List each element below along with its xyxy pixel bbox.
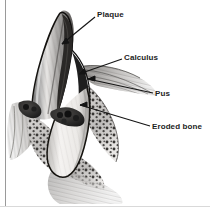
illustration-figure: Plaque Calculus Pus Eroded bone	[0, 0, 210, 207]
label-plaque: Plaque	[97, 10, 124, 19]
label-pus: Pus	[155, 89, 170, 98]
label-calculus: Calculus	[124, 53, 158, 62]
label-eroded-bone: Eroded bone	[152, 122, 202, 131]
periodontal-illustration	[0, 0, 210, 207]
